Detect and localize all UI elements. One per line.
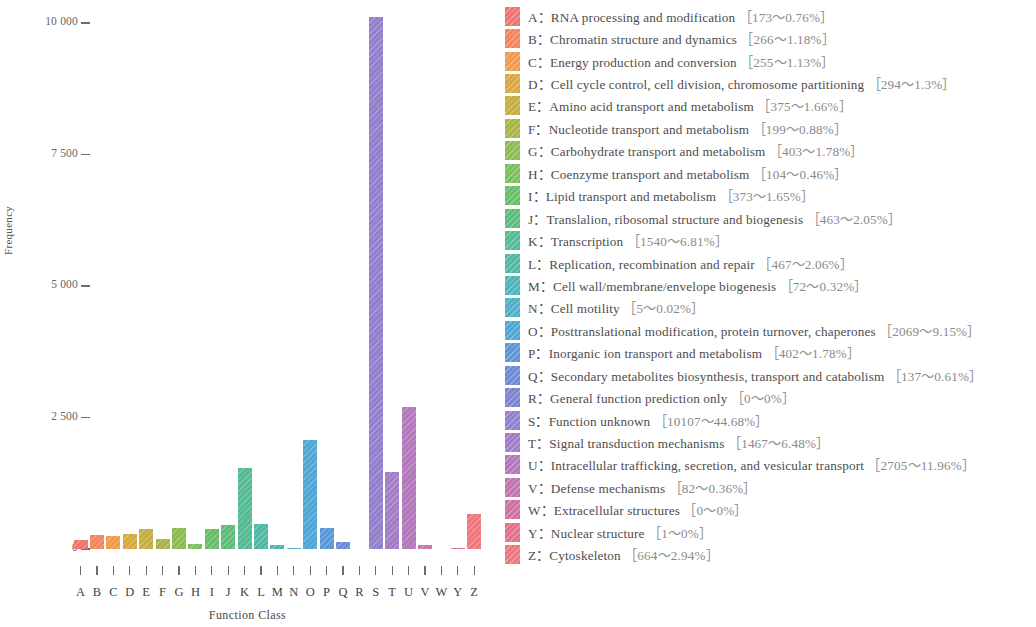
legend-swatch-H [505, 164, 520, 183]
x-tick-label-L: L [252, 585, 270, 600]
x-tick-label-B: B [88, 585, 106, 600]
legend-item-K[interactable]: K：Transcription ［1540～6.81%］ [505, 229, 1036, 251]
legend-count-percent: ［1～0%］ [648, 526, 712, 541]
x-tick-mark [392, 566, 393, 575]
x-tick-label-S: S [367, 585, 385, 600]
legend-item-P[interactable]: P：Inorganic ion transport and metabolism… [505, 342, 1036, 364]
bar-hatch-texture [139, 529, 153, 549]
legend-item-I[interactable]: I：Lipid transport and metabolism ［373～1.… [505, 185, 1036, 207]
x-tick-mark [293, 566, 294, 575]
legend-swatch-E [505, 96, 520, 115]
legend-description: Amino acid transport and metabolism [549, 99, 757, 114]
legend-swatch-hatch [505, 343, 520, 362]
bar-hatch-texture [385, 472, 399, 549]
legend-description: Extracellular structures [554, 503, 684, 518]
y-tick-label: 0 [0, 541, 78, 553]
y-tick-label: 7 500 [0, 147, 78, 159]
legend-count-percent: ［294～1.3%］ [868, 77, 956, 92]
x-tick-mark [195, 566, 196, 575]
bar-hatch-texture [90, 535, 104, 549]
legend-description: Inorganic ion transport and metabolism [549, 346, 766, 361]
legend-item-Y[interactable]: Y：Nuclear structure ［1～0%］ [505, 521, 1036, 543]
legend-item-Z[interactable]: Z：Cytoskeleton ［664～2.94%］ [505, 544, 1036, 566]
legend-swatch-L [505, 254, 520, 273]
bar-V [418, 545, 432, 549]
legend-item-S[interactable]: S：Function unknown ［10107～44.68%］ [505, 409, 1036, 431]
bar-hatch-texture [156, 539, 170, 549]
legend-description: Defense mechanisms [551, 481, 669, 496]
legend-key: T： [528, 436, 549, 451]
x-tick-label-W: W [432, 585, 450, 600]
x-tick-mark [474, 566, 475, 575]
legend-item-G[interactable]: G：Carbohydrate transport and metabolism … [505, 140, 1036, 162]
legend-description: Intracellular trafficking, secretion, an… [551, 458, 868, 473]
bar-C [106, 536, 120, 549]
legend-key: Y： [528, 526, 551, 541]
legend-key: L： [528, 257, 549, 272]
legend-count-percent: ［1467～6.48%］ [728, 436, 829, 451]
legend-label-S: S：Function unknown ［10107～44.68%］ [528, 411, 769, 430]
legend-item-U[interactable]: U：Intracellular trafficking, secretion, … [505, 454, 1036, 476]
legend-count-percent: ［402～1.78%］ [766, 346, 861, 361]
x-tick-mark [375, 566, 376, 575]
legend-label-K: K：Transcription ［1540～6.81%］ [528, 231, 728, 250]
x-tick-label-M: M [268, 585, 286, 600]
legend-item-J[interactable]: J：Translalion, ribosomal structure and b… [505, 207, 1036, 229]
bar-hatch-texture [303, 440, 317, 549]
bar-U [402, 407, 416, 549]
legend-item-V[interactable]: V：Defense mechanisms ［82～0.36%］ [505, 476, 1036, 498]
legend-item-W[interactable]: W：Extracellular structures ［0～0%］ [505, 499, 1036, 521]
y-tick-label: 5 000 [0, 278, 78, 290]
legend-item-B[interactable]: B：Chromatin structure and dynamics ［266～… [505, 27, 1036, 49]
legend-item-H[interactable]: H：Coenzyme transport and metabolism ［104… [505, 162, 1036, 184]
legend-count-percent: ［173～0.76%］ [739, 10, 834, 25]
legend-label-M: M：Cell wall/membrane/envelope biogenesis… [528, 276, 867, 295]
legend-item-M[interactable]: M：Cell wall/membrane/envelope biogenesis… [505, 274, 1036, 296]
legend-count-percent: ［0～0%］ [683, 503, 747, 518]
legend-item-Q[interactable]: Q：Secondary metabolites biosynthesis, tr… [505, 364, 1036, 386]
x-tick-label-I: I [203, 585, 221, 600]
legend-description: Cell motility [551, 301, 623, 316]
bar-hatch-texture [123, 534, 137, 549]
x-tick-label-U: U [400, 585, 418, 600]
legend-item-O[interactable]: O：Posttranslational modification, protei… [505, 319, 1036, 341]
legend-item-L[interactable]: L：Replication, recombination and repair … [505, 252, 1036, 274]
bar-L [254, 524, 268, 549]
legend-description: General function prediction only [550, 391, 731, 406]
legend-count-percent: ［463～2.05%］ [807, 212, 902, 227]
legend-item-D[interactable]: D：Cell cycle control, cell division, chr… [505, 72, 1036, 94]
x-tick-label-C: C [104, 585, 122, 600]
legend-item-R[interactable]: R：General function prediction only ［0～0%… [505, 386, 1036, 408]
legend-label-W: W：Extracellular structures ［0～0%］ [528, 500, 748, 519]
bar-B [90, 535, 104, 549]
legend-description: Replication, recombination and repair [549, 257, 758, 272]
legend-label-Y: Y：Nuclear structure ［1～0%］ [528, 523, 712, 542]
legend-item-E[interactable]: E：Amino acid transport and metabolism ［3… [505, 95, 1036, 117]
legend-key: P： [528, 346, 549, 361]
legend-item-F[interactable]: F：Nucleotide transport and metabolism ［1… [505, 117, 1036, 139]
x-tick-label-T: T [383, 585, 401, 600]
legend-item-N[interactable]: N：Cell motility ［5～0.02%］ [505, 297, 1036, 319]
legend-swatch-F [505, 119, 520, 138]
legend-description: Translalion, ribosomal structure and bio… [546, 212, 806, 227]
legend-label-Q: Q：Secondary metabolites biosynthesis, tr… [528, 366, 982, 385]
bar-hatch-texture [467, 514, 481, 549]
x-tick-mark [228, 566, 229, 575]
legend-item-C[interactable]: C：Energy production and conversion ［255～… [505, 50, 1036, 72]
bar-series [72, 0, 492, 549]
legend-swatch-S [505, 411, 520, 430]
legend-label-B: B：Chromatin structure and dynamics ［266～… [528, 29, 835, 48]
legend-count-percent: ［266～1.18%］ [740, 32, 835, 47]
legend-item-A[interactable]: A：RNA processing and modification ［173～0… [505, 5, 1036, 27]
x-tick-label-R: R [350, 585, 368, 600]
x-tick-mark [260, 566, 261, 575]
legend-item-T[interactable]: T：Signal transduction mechanisms ［1467～6… [505, 431, 1036, 453]
legend-swatch-hatch [505, 455, 520, 474]
x-tick-label-P: P [318, 585, 336, 600]
legend-count-percent: ［1540～6.81%］ [627, 234, 728, 249]
x-tick-mark [96, 566, 97, 575]
bar-D [123, 534, 137, 549]
legend-swatch-hatch [505, 545, 520, 564]
legend-swatch-hatch [505, 7, 520, 26]
legend-swatch-hatch [505, 52, 520, 71]
